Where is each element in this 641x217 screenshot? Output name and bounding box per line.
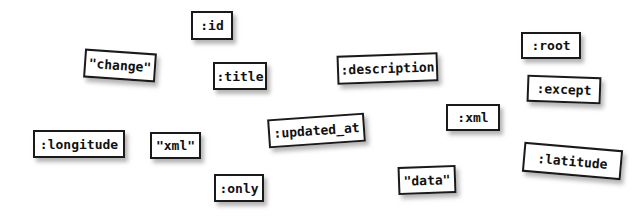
label-box[interactable]: :id: [191, 11, 233, 40]
label-box[interactable]: :only: [214, 174, 264, 202]
label-cloud-canvas: :id"change":title:description:root:excep…: [0, 0, 641, 217]
label-box[interactable]: :except: [527, 75, 602, 105]
label-box[interactable]: :root: [521, 32, 581, 59]
label-box[interactable]: :updated_at: [267, 113, 366, 149]
label-box[interactable]: :xml: [446, 104, 500, 131]
label-box[interactable]: :latitude: [522, 142, 623, 181]
label-box[interactable]: :title: [213, 62, 267, 90]
label-box[interactable]: :description: [337, 52, 439, 85]
label-box[interactable]: "xml": [150, 132, 201, 159]
label-box[interactable]: "data": [398, 165, 457, 195]
label-box[interactable]: "change": [83, 49, 157, 83]
label-box[interactable]: :longitude: [33, 130, 125, 158]
